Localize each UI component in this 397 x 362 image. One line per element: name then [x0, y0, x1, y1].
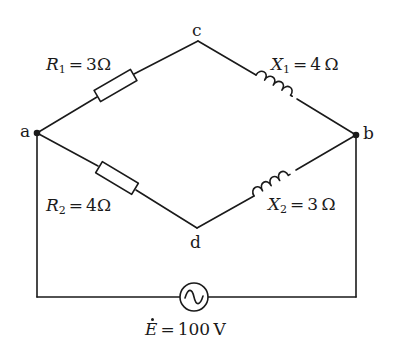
r2-subscript: 2 — [59, 204, 66, 217]
r2-value: 4 — [86, 195, 97, 215]
e-symbol: E — [145, 321, 157, 338]
x2-unit: Ω — [322, 194, 336, 214]
r2-unit: Ω — [97, 195, 111, 215]
r1-symbol: R — [46, 54, 59, 74]
r2-symbol: R — [46, 195, 59, 215]
x1-subscript: 1 — [283, 63, 290, 76]
node-label-d: d — [190, 234, 201, 251]
node-label-b: b — [363, 125, 374, 142]
r1-value: 3 — [86, 54, 97, 74]
x1-equals: = — [293, 54, 307, 74]
label-r1: R1=3Ω — [46, 56, 111, 75]
node-label-c: c — [192, 22, 202, 39]
resistor-r2 — [96, 162, 139, 195]
node-b-dot — [353, 132, 360, 139]
r1-equals: = — [69, 54, 83, 74]
x2-symbol: X — [268, 194, 280, 214]
e-unit: V — [214, 319, 226, 339]
x2-equals: = — [290, 194, 304, 214]
x1-unit: Ω — [325, 54, 339, 74]
r1-unit: Ω — [97, 54, 111, 74]
x2-value: 3 — [307, 194, 318, 214]
ac-source-icon — [180, 283, 208, 311]
x2-subscript: 2 — [280, 203, 287, 216]
inductor-x2 — [251, 169, 290, 196]
e-equals: = — [160, 319, 174, 339]
x1-value: 4 — [310, 54, 321, 74]
r1-subscript: 1 — [59, 63, 66, 76]
r2-equals: = — [69, 195, 83, 215]
x1-symbol: X — [271, 54, 283, 74]
label-source-e: E=100 V — [145, 321, 226, 338]
label-r2: R2=4Ω — [46, 197, 111, 216]
label-x1: X1=4 Ω — [271, 56, 339, 75]
node-label-a: a — [20, 123, 30, 140]
label-x2: X2=3 Ω — [268, 196, 336, 215]
node-a-dot — [34, 130, 41, 137]
e-value: 100 — [178, 319, 210, 339]
